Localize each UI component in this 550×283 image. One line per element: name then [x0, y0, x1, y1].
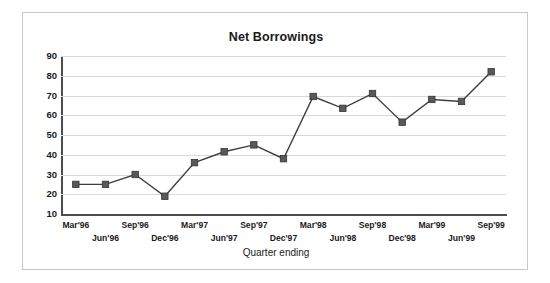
data-point-marker	[340, 105, 346, 111]
x-tick-label: Sep'98	[359, 220, 386, 230]
x-tick-label: Sep'96	[121, 220, 148, 230]
data-point-marker	[73, 181, 79, 187]
data-point-marker	[280, 156, 286, 162]
data-point-marker	[191, 159, 197, 165]
y-tick-label: 20	[29, 188, 57, 199]
x-tick-label: Jun'99	[448, 233, 475, 243]
y-tick-label: 80	[29, 70, 57, 81]
data-point-marker	[369, 90, 375, 96]
plot-area	[61, 56, 506, 214]
chart-title: Net Borrowings	[23, 30, 529, 44]
y-tick-label: 10	[29, 208, 57, 219]
y-tick-label: 30	[29, 169, 57, 180]
data-point-marker	[399, 119, 405, 125]
x-tick-label: Sep'97	[240, 220, 267, 230]
y-tick-label: 50	[29, 129, 57, 140]
y-tick-label: 60	[29, 109, 57, 120]
y-tick-label: 90	[29, 50, 57, 61]
x-tick-label: Sep'99	[477, 220, 504, 230]
x-tick-label: Dec'98	[388, 233, 415, 243]
data-point-marker	[162, 193, 168, 199]
data-point-marker	[132, 171, 138, 177]
x-tick-label: Jun'96	[92, 233, 119, 243]
data-point-marker	[488, 69, 494, 75]
x-tick-label: Mar'97	[181, 220, 208, 230]
data-point-marker	[310, 93, 316, 99]
y-tick-label: 70	[29, 90, 57, 101]
data-point-marker	[102, 181, 108, 187]
chart-frame: Net Borrowings 908070605040302010 Mar'96…	[22, 12, 528, 270]
x-axis-title: Quarter ending	[23, 247, 529, 258]
data-point-marker	[251, 142, 257, 148]
data-point-marker	[221, 149, 227, 155]
data-point-marker	[458, 98, 464, 104]
x-tick-label: Mar'99	[418, 220, 445, 230]
x-tick-label: Mar'98	[300, 220, 327, 230]
x-tick-label: Dec'96	[151, 233, 178, 243]
y-tick-label: 40	[29, 149, 57, 160]
x-tick-label: Dec'97	[270, 233, 297, 243]
x-tick-label: Mar'96	[62, 220, 89, 230]
series-markers	[73, 69, 495, 200]
x-tick-label: Jun'98	[329, 233, 356, 243]
x-tick-label: Jun'97	[211, 233, 238, 243]
line-series-net-borrowings	[61, 56, 506, 214]
data-point-marker	[429, 96, 435, 102]
x-axis-line	[61, 214, 507, 216]
